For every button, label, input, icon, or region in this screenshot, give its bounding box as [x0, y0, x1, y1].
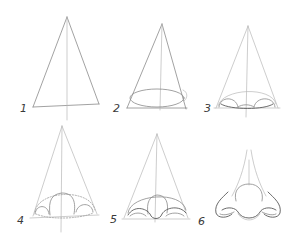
step-5-drawing: [122, 134, 190, 222]
step-2-drawing: [127, 24, 187, 110]
step-6-drawing: [216, 150, 281, 220]
step-label-5: 5: [110, 214, 117, 225]
step-label-1: 1: [20, 103, 27, 114]
step-label-6: 6: [198, 216, 205, 227]
step-4-drawing: [30, 126, 99, 232]
step-label-4: 4: [17, 215, 24, 226]
nose-tutorial-canvas: [0, 0, 294, 243]
step-3-drawing: [214, 26, 280, 117]
step-label-3: 3: [204, 103, 211, 114]
step-1-drawing: [33, 17, 99, 120]
step-label-2: 2: [113, 103, 120, 114]
